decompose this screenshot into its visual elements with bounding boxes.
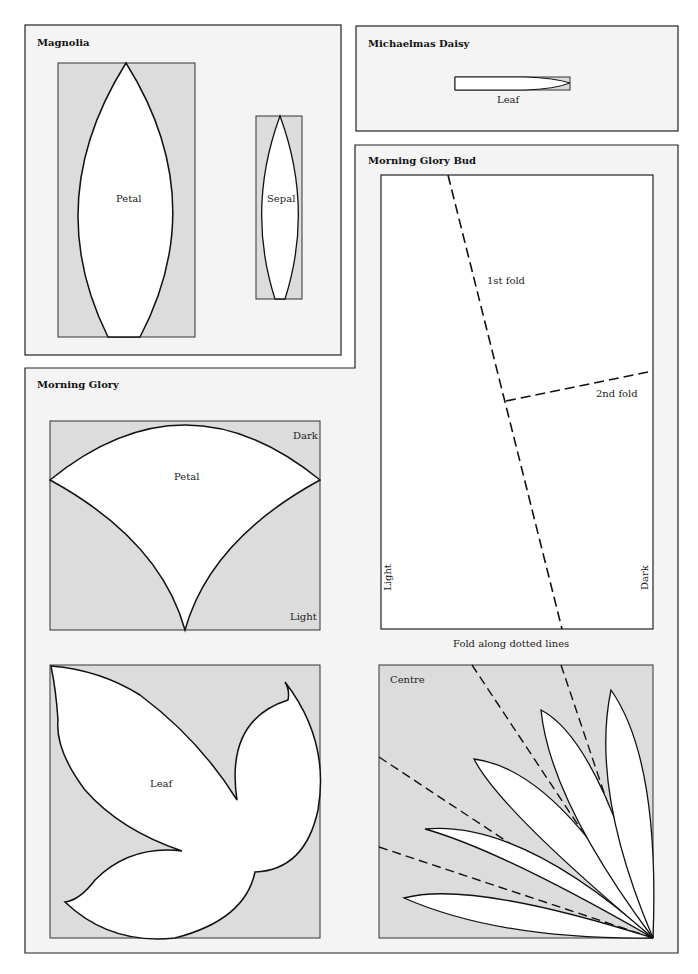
bud-template <box>381 175 653 629</box>
glory-dark-label: Dark <box>293 430 318 441</box>
bud-light-label: Light <box>382 564 393 591</box>
magnolia-petal-label: Petal <box>116 193 141 204</box>
centre-label: Centre <box>390 674 425 685</box>
bud-fold2-label: 2nd fold <box>596 388 638 399</box>
bud-caption: Fold along dotted lines <box>453 638 569 649</box>
template-sheet <box>0 0 698 974</box>
bud-title: Morning Glory Bud <box>368 155 476 166</box>
glory-light-label: Light <box>290 611 317 622</box>
glory-title: Morning Glory <box>37 379 119 390</box>
magnolia-title: Magnolia <box>37 37 90 48</box>
daisy-title: Michaelmas Daisy <box>368 38 469 49</box>
glory-leaf-label: Leaf <box>150 778 172 789</box>
bud-dark-label: Dark <box>639 565 650 590</box>
magnolia-sepal-label: Sepal <box>267 193 295 204</box>
bud-fold1-label: 1st fold <box>487 275 525 286</box>
glory-petal-label: Petal <box>174 471 199 482</box>
daisy-leaf-label: Leaf <box>497 94 519 105</box>
